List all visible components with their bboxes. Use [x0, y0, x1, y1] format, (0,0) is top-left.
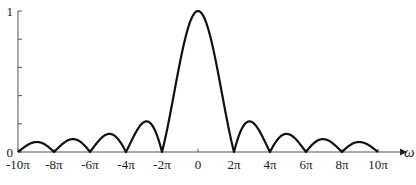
x-tick-label: -2π	[153, 157, 171, 172]
sinc-curve	[18, 11, 378, 152]
x-tick-label: -4π	[117, 157, 135, 172]
x-tick-label: 6π	[299, 157, 313, 172]
sinc-magnitude-chart: -10π-8π-6π-4π-2π02π4π6π8π10π 01 ω	[0, 0, 416, 185]
y-tick-label: 1	[6, 4, 13, 19]
x-tick-label: -8π	[45, 157, 63, 172]
x-tick-label: 4π	[263, 157, 277, 172]
x-axis-label: ω	[404, 144, 415, 160]
x-tick-labels: -10π-8π-6π-4π-2π02π4π6π8π10π	[6, 157, 388, 172]
y-tick-labels: 01	[6, 4, 13, 160]
x-tick-label: 10π	[368, 157, 388, 172]
x-tick-label: 0	[195, 157, 202, 172]
x-tick-label: -6π	[81, 157, 99, 172]
axes	[18, 11, 407, 156]
x-tick-label: 8π	[335, 157, 349, 172]
x-tick-label: 2π	[227, 157, 241, 172]
y-tick-label: 0	[6, 145, 13, 160]
